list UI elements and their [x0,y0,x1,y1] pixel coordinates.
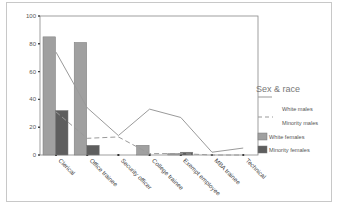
y-tick-label: 100 [26,13,37,19]
legend-swatch [258,133,267,140]
y-tick-label: 80 [29,41,36,47]
x-tick-label: Security officer [120,157,154,191]
bar [56,111,69,155]
x-tick-label: Office trainee [88,157,119,188]
x-tick-label: College trainee [151,157,186,192]
x-tick-label: Clerical [57,157,77,177]
legend-item: White males [282,106,313,112]
legend-title: Sex & race [256,84,300,94]
legend-item: Minority females [269,147,310,153]
legend-item: Minority males [282,120,318,126]
y-tick-label: 0 [33,152,37,158]
y-tick-label: 20 [29,124,36,130]
bar [43,37,56,155]
chart-canvas: 020406080100 ClericalOffice traineeSecur… [0,0,338,208]
y-tick-label: 40 [29,96,36,102]
y-tick-label: 60 [29,69,36,75]
legend-item: White females [269,134,305,140]
bar [87,145,100,155]
x-axis-labels: ClericalOffice traineeSecurity officerCo… [57,157,267,197]
bar [74,42,87,155]
legend: Sex & race White malesMinority malesWhit… [256,84,318,153]
legend-swatch [258,146,267,153]
bars [43,37,193,155]
x-tick-label: MBA trainee [213,157,242,186]
x-tick-label: Technical [244,157,267,180]
